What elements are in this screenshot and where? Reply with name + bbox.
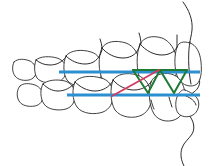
dental-diagram-figure [0,0,211,166]
upper-molar-posterior [13,59,36,80]
upper-molar-second [35,57,66,83]
lower-molar-posterior [17,84,43,107]
dental-diagram-svg [0,0,211,166]
